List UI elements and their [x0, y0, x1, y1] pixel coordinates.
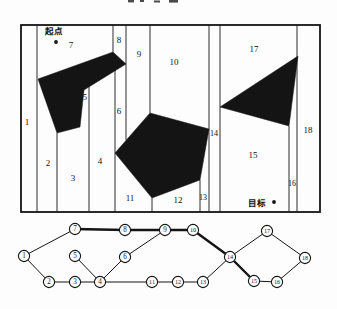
- graph-node-label-18: 18: [302, 254, 308, 261]
- cell-label-11: 11: [126, 193, 135, 203]
- graph-node-label-10: 10: [190, 226, 196, 233]
- graph-edge-6-9: [125, 230, 165, 257]
- graph-edge-14-17: [230, 231, 267, 257]
- cell-label-15: 15: [249, 150, 259, 160]
- cell-label-16: 16: [288, 179, 296, 188]
- graph-node-label-12: 12: [175, 278, 181, 285]
- rotated-rectangle-obstacle: [38, 52, 126, 133]
- goal-label: 目标: [248, 198, 266, 208]
- graph-node-label-4: 4: [98, 278, 102, 286]
- path-planning-figure: 123456789101112131415161718起点目标 12345678…: [0, 0, 337, 309]
- cell-label-18: 18: [304, 125, 314, 135]
- graph-node-label-9: 9: [163, 226, 167, 234]
- graph-node-label-15: 15: [251, 277, 257, 284]
- cell-label-12: 12: [174, 195, 183, 205]
- pentagon-obstacle: [115, 113, 209, 198]
- graph-node-label-17: 17: [264, 227, 270, 234]
- graph-node-label-3: 3: [73, 278, 77, 286]
- graph-edge-10-14-path: [193, 230, 230, 257]
- graph-node-label-7: 7: [73, 225, 77, 233]
- cell-label-17: 17: [250, 44, 260, 54]
- triangle-obstacle: [220, 56, 298, 126]
- graph-node-label-14: 14: [227, 253, 233, 260]
- graph-node-label-16: 16: [274, 278, 280, 285]
- cell-label-1: 1: [25, 117, 30, 127]
- cropped-caption-mark: [154, 1, 160, 3]
- cell-label-6: 6: [117, 106, 122, 116]
- cell-label-7: 7: [69, 40, 74, 50]
- cell-label-8: 8: [117, 35, 122, 45]
- graph-edge-1-7: [24, 229, 75, 256]
- start-point-label: 起点: [44, 26, 63, 36]
- cell-decomposition-diagram: 123456789101112131415161718起点目标: [21, 25, 320, 212]
- cell-label-14: 14: [210, 129, 218, 138]
- graph-node-label-11: 11: [149, 278, 155, 285]
- connectivity-graph: 123456789101112131415161718: [18, 223, 310, 287]
- graph-node-label-2: 2: [47, 278, 51, 286]
- graph-node-label-13: 13: [200, 278, 206, 285]
- graph-node-label-8: 8: [123, 226, 127, 234]
- graph-edge-7-8-path: [75, 229, 125, 230]
- cell-label-9: 9: [137, 49, 142, 59]
- cell-label-2: 2: [46, 158, 51, 168]
- goal-dot: [272, 200, 276, 204]
- cell-label-5: 5: [83, 93, 87, 102]
- graph-node-label-1: 1: [22, 252, 26, 260]
- cell-label-10: 10: [170, 57, 180, 67]
- cell-label-13: 13: [199, 193, 207, 202]
- start-point-dot: [54, 40, 58, 44]
- cell-label-3: 3: [71, 173, 76, 183]
- graph-node-label-5: 5: [73, 252, 77, 260]
- cropped-caption-mark: [128, 0, 134, 2]
- cropped-caption-fragment: [128, 0, 178, 3]
- cropped-caption-mark: [140, 0, 144, 2]
- cell-label-4: 4: [98, 156, 103, 166]
- graph-node-label-6: 6: [123, 253, 127, 261]
- cropped-caption-mark: [169, 0, 178, 3]
- graph-edge-17-18: [267, 231, 305, 258]
